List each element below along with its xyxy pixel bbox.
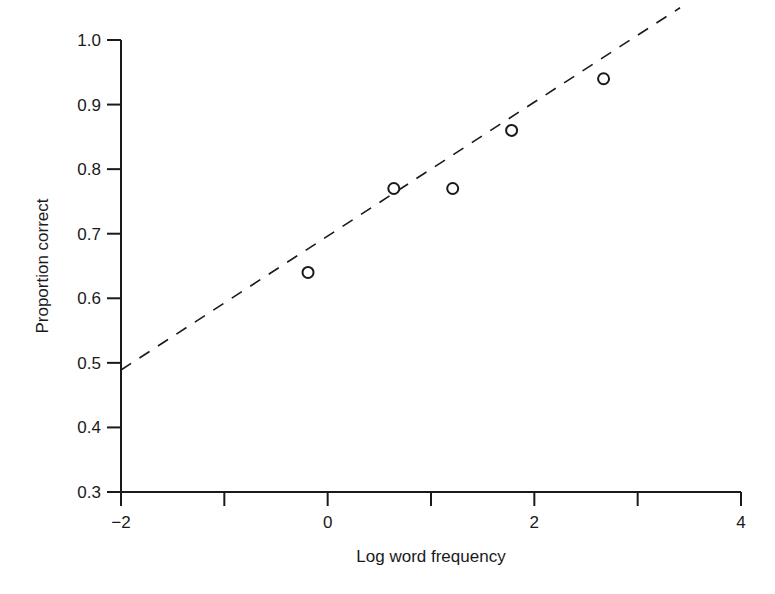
y-tick-label: 0.9 bbox=[77, 96, 101, 115]
data-points bbox=[303, 73, 610, 278]
data-point-open-circle-icon bbox=[598, 73, 609, 84]
x-axis-label: Log word frequency bbox=[356, 547, 506, 566]
x-axis: −2024 bbox=[107, 492, 746, 532]
y-tick-label: 0.6 bbox=[77, 289, 101, 308]
data-point-open-circle-icon bbox=[303, 267, 314, 278]
y-tick-label: 0.5 bbox=[77, 354, 101, 373]
data-point-open-circle-icon bbox=[388, 183, 399, 194]
fit-line-path bbox=[121, 8, 680, 370]
y-tick-label: 0.4 bbox=[77, 418, 101, 437]
y-axis-label: Proportion correct bbox=[33, 198, 52, 333]
x-tick-label: −2 bbox=[111, 513, 130, 532]
x-tick-label: 0 bbox=[323, 513, 332, 532]
dashed-fit-line bbox=[121, 8, 680, 370]
x-tick-label: 4 bbox=[736, 513, 745, 532]
data-point-open-circle-icon bbox=[506, 125, 517, 136]
y-tick-label: 0.8 bbox=[77, 160, 101, 179]
y-axis: 0.30.40.50.60.70.80.91.0 bbox=[77, 31, 121, 506]
y-tick-label: 1.0 bbox=[77, 31, 101, 50]
y-tick-label: 0.3 bbox=[77, 483, 101, 502]
scatter-chart: 0.30.40.50.60.70.80.91.0 −2024 Log word … bbox=[0, 0, 775, 594]
y-tick-label: 0.7 bbox=[77, 225, 101, 244]
data-point-open-circle-icon bbox=[447, 183, 458, 194]
x-tick-label: 2 bbox=[530, 513, 539, 532]
